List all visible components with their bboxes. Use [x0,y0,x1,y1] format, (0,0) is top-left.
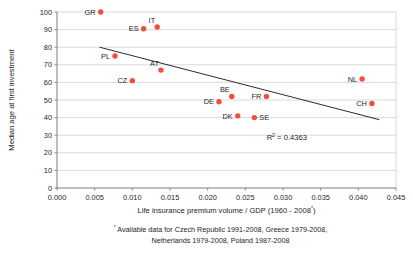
data-point-fr [264,94,269,99]
x-tick-label: 0.015 [161,193,180,202]
y-tick-labels: 0102030405060708090100 [40,8,52,193]
point-label-at: AT [150,59,159,68]
y-axis-title: Median age at first investment [7,48,16,150]
data-point-gr [98,9,103,14]
y-tick-label: 0 [48,184,52,193]
footnote-line-2: Netherlands 1979-2008, Poland 1987-2008 [152,236,290,245]
point-label-nl: NL [348,75,357,84]
point-label-cz: CZ [117,76,127,85]
point-label-it: IT [149,16,156,25]
point-label-pl: PL [101,52,110,61]
point-label-ch: CH [356,99,367,108]
y-tick-label: 30 [44,131,52,140]
y-tick-label: 80 [44,43,52,52]
footnote: * Available data for Czech Republic 1991… [114,224,328,245]
data-point-be [229,94,234,99]
y-tick-label: 20 [44,148,52,157]
footnote-line-1: * Available data for Czech Republic 1991… [114,224,328,234]
y-tick-label: 10 [44,166,52,175]
data-point-pl [112,53,117,58]
x-tick-label: 0.030 [274,193,293,202]
x-tick-labels: 0.0000.0050.0100.0150.0200.0250.0300.035… [48,193,406,202]
data-point-se [252,115,257,120]
y-tick-label: 70 [44,60,52,69]
point-label-de: DE [204,97,214,106]
data-point-at [158,67,163,72]
x-tick-label: 0.045 [387,193,406,202]
point-label-be: BE [220,85,230,94]
y-tick-label: 50 [44,96,52,105]
y-tick-label: 90 [44,25,52,34]
data-point-it [154,24,159,29]
data-point-nl [359,76,364,81]
trend-line-segment [100,47,380,120]
x-tick-label: 0.010 [123,193,142,202]
r-squared-text: R2 = 0.4363 [267,132,307,142]
r-squared-annotation: R2 = 0.4363 [267,132,307,142]
x-tick-label: 0.005 [85,193,104,202]
data-point-cz [130,78,135,83]
y-tick-label: 100 [40,8,52,17]
data-point-de [216,99,221,104]
point-label-gr: GR [85,8,96,17]
x-tick-label: 0.035 [311,193,330,202]
point-label-se: SE [259,113,269,122]
data-point-es [141,26,146,31]
data-point-dk [235,113,240,118]
data-point-ch [369,101,374,106]
trend-line [100,47,380,120]
axis-ticks [54,12,396,191]
x-tick-label: 0.000 [48,193,67,202]
x-tick-label: 0.020 [198,193,217,202]
gridlines [57,12,396,188]
y-tick-label: 40 [44,113,52,122]
scatter-chart: 0102030405060708090100 0.0000.0050.0100.… [0,0,413,253]
x-tick-label: 0.040 [349,193,368,202]
chart-canvas: 0102030405060708090100 0.0000.0050.0100.… [0,0,413,253]
x-axis-title: Life insurance premium volume / GDP (196… [138,205,316,215]
point-label-es: ES [129,24,139,33]
point-label-dk: DK [223,112,233,121]
x-tick-label: 0.025 [236,193,255,202]
point-label-fr: FR [252,92,262,101]
y-tick-label: 60 [44,78,52,87]
